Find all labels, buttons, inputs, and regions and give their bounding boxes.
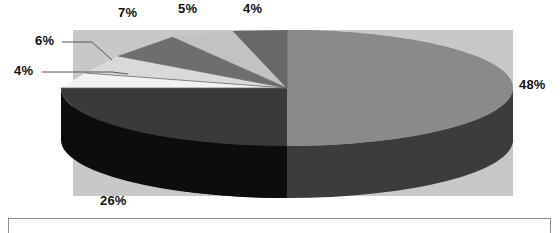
pie-chart-canvas: [0, 0, 560, 233]
legend-box: [8, 218, 551, 233]
pie-chart: 7% 5% 4% 6% 4% 48% 26%: [0, 0, 560, 233]
pie-label-7: 7%: [118, 6, 137, 19]
pie-label-48: 48%: [519, 78, 546, 91]
pie-label-26: 26%: [100, 194, 127, 207]
pie-label-4-left: 4%: [14, 64, 33, 77]
pie-label-6: 6%: [35, 34, 54, 47]
pie-label-4-top: 4%: [243, 2, 262, 15]
pie-label-5: 5%: [178, 2, 197, 15]
